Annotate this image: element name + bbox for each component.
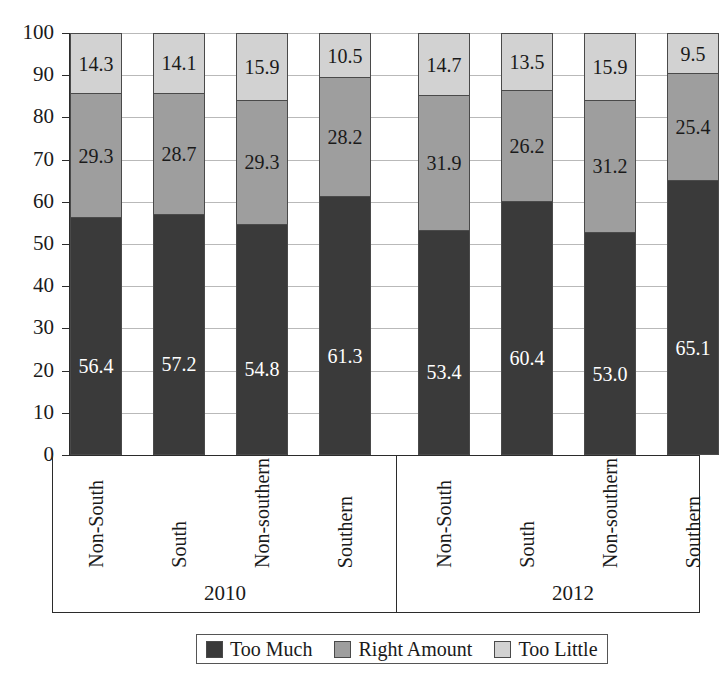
bar-segment-too-little[interactable]: 9.5 xyxy=(667,33,719,73)
y-tick-mark-50 xyxy=(62,244,69,245)
bar-2010-south[interactable]: 14.128.757.2 xyxy=(153,33,205,455)
bar-segment-right-amount[interactable]: 25.4 xyxy=(667,73,719,180)
y-tick-label-90: 90 xyxy=(12,64,54,85)
legend-item-too-little[interactable]: Too Little xyxy=(494,639,597,659)
stacked-bar-chart: 1009080706050403020100 14.329.356.414.12… xyxy=(0,0,725,679)
category-label-2012-non-southern: Non-southern xyxy=(600,458,620,568)
bar-value-label: 14.1 xyxy=(162,53,197,73)
bar-segment-too-much[interactable]: 53.0 xyxy=(584,232,636,456)
legend-item-too-much[interactable]: Too Much xyxy=(206,639,312,659)
bar-segment-too-little[interactable]: 10.5 xyxy=(319,33,371,77)
legend-swatch-icon xyxy=(334,641,351,658)
y-tick-mark-70 xyxy=(62,160,69,161)
bar-value-label: 29.3 xyxy=(79,146,114,166)
bar-value-label: 28.7 xyxy=(162,144,197,164)
bar-segment-right-amount[interactable]: 29.3 xyxy=(236,100,288,224)
bar-segment-right-amount[interactable]: 28.2 xyxy=(319,77,371,196)
bar-segment-too-much[interactable]: 53.4 xyxy=(418,230,470,455)
chart-legend: Too MuchRight AmountToo Little xyxy=(196,634,608,664)
bar-value-label: 56.4 xyxy=(79,356,114,376)
group-label-2012: 2012 xyxy=(513,582,633,604)
group-label-2010: 2010 xyxy=(165,582,285,604)
bar-2012-south[interactable]: 13.526.260.4 xyxy=(501,33,553,455)
legend-swatch-icon xyxy=(206,641,223,658)
group-divider xyxy=(396,456,397,613)
category-label-2010-south: South xyxy=(169,521,189,568)
y-tick-label-80: 80 xyxy=(12,106,54,127)
bar-segment-too-much[interactable]: 61.3 xyxy=(319,196,371,455)
bar-value-label: 14.7 xyxy=(427,55,462,75)
bar-value-label: 10.5 xyxy=(328,46,363,66)
category-label-2010-non-south: Non-South xyxy=(86,480,106,568)
bar-2012-non-southern[interactable]: 15.931.253.0 xyxy=(584,33,636,455)
y-tick-mark-40 xyxy=(62,286,69,287)
y-tick-mark-20 xyxy=(62,371,69,372)
bar-segment-too-little[interactable]: 13.5 xyxy=(501,33,553,90)
bar-segment-too-much[interactable]: 57.2 xyxy=(153,214,205,455)
y-tick-label-10: 10 xyxy=(12,402,54,423)
bar-2012-southern[interactable]: 9.525.465.1 xyxy=(667,33,719,455)
bar-segment-too-much[interactable]: 65.1 xyxy=(667,180,719,455)
y-tick-label-100: 100 xyxy=(12,22,54,43)
bar-value-label: 60.4 xyxy=(510,348,545,368)
y-tick-mark-30 xyxy=(62,328,69,329)
legend-label: Too Much xyxy=(230,639,312,659)
y-tick-label-20: 20 xyxy=(12,360,54,381)
y-tick-label-60: 60 xyxy=(12,191,54,212)
y-tick-label-0: 0 xyxy=(12,444,54,465)
bar-segment-right-amount[interactable]: 29.3 xyxy=(70,93,122,217)
y-tick-mark-100 xyxy=(62,33,69,34)
bar-value-label: 53.0 xyxy=(593,364,628,384)
bar-value-label: 57.2 xyxy=(162,354,197,374)
category-label-band: Non-SouthSouthNon-southernSouthernNon-So… xyxy=(52,456,700,613)
bar-value-label: 13.5 xyxy=(510,52,545,72)
y-tick-label-40: 40 xyxy=(12,275,54,296)
bar-2010-southern[interactable]: 10.528.261.3 xyxy=(319,33,371,455)
bar-segment-too-little[interactable]: 15.9 xyxy=(236,33,288,100)
bar-segment-too-much[interactable]: 56.4 xyxy=(70,217,122,455)
bar-segment-right-amount[interactable]: 31.9 xyxy=(418,95,470,230)
bar-segment-too-much[interactable]: 60.4 xyxy=(501,201,553,456)
legend-swatch-icon xyxy=(494,641,511,658)
bar-value-label: 14.3 xyxy=(79,54,114,74)
bar-segment-too-little[interactable]: 14.1 xyxy=(153,33,205,93)
bar-segment-right-amount[interactable]: 31.2 xyxy=(584,100,636,232)
bar-value-label: 54.8 xyxy=(245,359,280,379)
bar-value-label: 25.4 xyxy=(676,117,711,137)
bar-segment-too-little[interactable]: 14.3 xyxy=(70,33,122,93)
bar-segment-too-little[interactable]: 14.7 xyxy=(418,33,470,95)
legend-label: Right Amount xyxy=(358,639,472,659)
bar-segment-right-amount[interactable]: 28.7 xyxy=(153,93,205,214)
y-tick-mark-90 xyxy=(62,75,69,76)
bar-2010-non-south[interactable]: 14.329.356.4 xyxy=(70,33,122,455)
bar-segment-too-little[interactable]: 15.9 xyxy=(584,33,636,100)
bar-segment-too-much[interactable]: 54.8 xyxy=(236,224,288,455)
bar-value-label: 26.2 xyxy=(510,136,545,156)
category-label-2010-non-southern: Non-southern xyxy=(252,458,272,568)
bar-value-label: 53.4 xyxy=(427,362,462,382)
category-label-2012-non-south: Non-South xyxy=(434,480,454,568)
category-label-2012-southern: Southern xyxy=(683,496,703,568)
y-tick-label-30: 30 xyxy=(12,317,54,338)
y-tick-label-50: 50 xyxy=(12,233,54,254)
bar-value-label: 15.9 xyxy=(245,57,280,77)
bar-value-label: 31.9 xyxy=(427,153,462,173)
category-label-2010-southern: Southern xyxy=(335,496,355,568)
bar-value-label: 31.2 xyxy=(593,156,628,176)
bar-value-label: 29.3 xyxy=(245,152,280,172)
bar-value-label: 15.9 xyxy=(593,57,628,77)
y-tick-mark-80 xyxy=(62,117,69,118)
y-tick-mark-10 xyxy=(62,413,69,414)
bar-value-label: 9.5 xyxy=(681,44,706,64)
legend-item-right-amount[interactable]: Right Amount xyxy=(334,639,472,659)
bar-value-label: 28.2 xyxy=(328,127,363,147)
bar-value-label: 65.1 xyxy=(676,338,711,358)
bar-2010-non-southern[interactable]: 15.929.354.8 xyxy=(236,33,288,455)
category-label-2012-south: South xyxy=(517,521,537,568)
plot-area: 14.329.356.414.128.757.215.929.354.810.5… xyxy=(70,33,700,455)
legend-label: Too Little xyxy=(518,639,597,659)
bar-2012-non-south[interactable]: 14.731.953.4 xyxy=(418,33,470,455)
bar-value-label: 61.3 xyxy=(328,346,363,366)
bar-segment-right-amount[interactable]: 26.2 xyxy=(501,90,553,201)
y-tick-mark-60 xyxy=(62,202,69,203)
